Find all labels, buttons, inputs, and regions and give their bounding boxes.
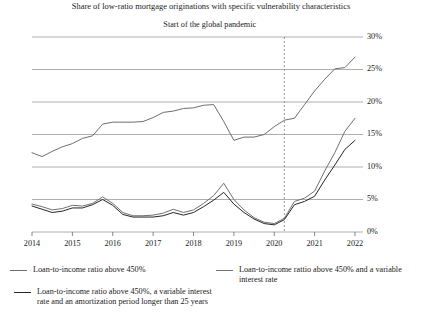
legend-item-loan-to-income-450: Loan-to-income ratio above 450% bbox=[10, 265, 210, 275]
y-axis-tick-label: 20% bbox=[367, 97, 382, 106]
series-line-0 bbox=[32, 57, 355, 156]
chart-container: Share of low-ratio mortgage originations… bbox=[0, 0, 422, 331]
legend-swatch-icon bbox=[14, 292, 31, 293]
x-axis-tick-label: 2016 bbox=[93, 239, 133, 248]
legend-swatch-icon bbox=[10, 270, 27, 271]
y-axis-tick-label: 25% bbox=[367, 64, 382, 73]
legend-swatch-icon bbox=[216, 270, 233, 271]
y-axis-tick-label: 0% bbox=[367, 227, 378, 236]
y-axis-tick-label: 30% bbox=[367, 32, 382, 41]
x-axis-tick-label: 2020 bbox=[254, 239, 294, 248]
legend-label: Loan-to-income rattio above 450% and a v… bbox=[239, 265, 416, 286]
legend-label: Loan-to-income ratio above 450% bbox=[33, 265, 210, 275]
x-axis-tick-label: 2014 bbox=[12, 239, 52, 248]
legend-item-loan-to-income-450-variable-rate: Loan-to-income rattio above 450% and a v… bbox=[216, 265, 416, 286]
y-axis-tick-label: 15% bbox=[367, 129, 382, 138]
x-axis-tick-label: 2018 bbox=[174, 239, 214, 248]
x-axis-tick-label: 2022 bbox=[335, 239, 375, 248]
y-axis-tick-label: 5% bbox=[367, 194, 378, 203]
series-line-2 bbox=[32, 140, 355, 225]
legend-label: Loan-to-income ratio above 450%, a varia… bbox=[37, 287, 224, 308]
x-axis-tick-label: 2019 bbox=[214, 239, 254, 248]
x-axis-tick-label: 2021 bbox=[295, 239, 335, 248]
y-axis-tick-label: 10% bbox=[367, 162, 382, 171]
x-axis-tick-label: 2015 bbox=[52, 239, 92, 248]
legend-item-loan-to-income-450-variable-amortization: Loan-to-income ratio above 450%, a varia… bbox=[14, 287, 224, 308]
x-axis-tick-label: 2017 bbox=[133, 239, 173, 248]
